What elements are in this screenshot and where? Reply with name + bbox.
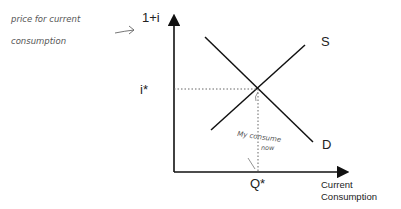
demand-label: D [322, 137, 331, 152]
price-annotation-line2: consumption [11, 36, 66, 46]
handwritten-mark [248, 158, 255, 169]
equilibrium-quantity-label: Q* [250, 176, 265, 191]
equilibrium-price-label: i* [140, 82, 148, 97]
y-axis-label: 1+i [142, 10, 160, 25]
equilibrium-annotation-line2: now [261, 144, 275, 152]
equilibrium-annotation-line1: My consume [237, 130, 282, 144]
x-axis-label-line2: Consumption [321, 191, 377, 202]
supply-demand-diagram: 1+i i* Q* S D Current Consumption price … [0, 0, 401, 209]
supply-label: S [321, 34, 330, 49]
price-annotation-line1: price for current [10, 14, 81, 24]
handwritten-arrow-icon [115, 26, 134, 34]
x-axis-label-line1: Current [321, 179, 353, 190]
